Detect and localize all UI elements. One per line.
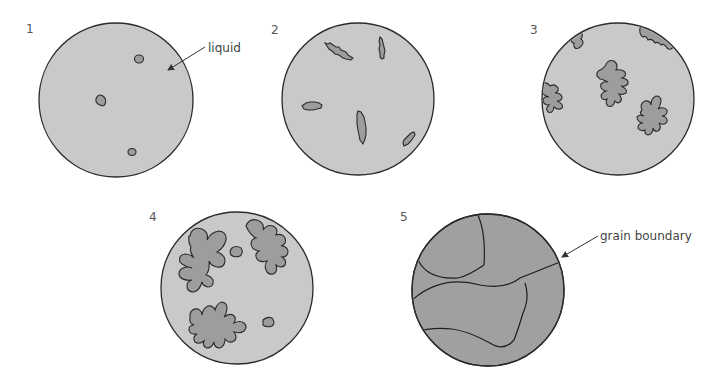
liquid-circle-4 xyxy=(161,212,313,364)
stage-5-number: 5 xyxy=(400,210,408,224)
stage-1-number: 1 xyxy=(26,22,34,36)
stage-5: 5 grain boundary xyxy=(400,210,692,366)
liquid-circle-2 xyxy=(282,23,434,175)
arrow-icon xyxy=(562,236,598,257)
stage-2-number: 2 xyxy=(271,23,279,37)
stage-4: 4 xyxy=(149,210,313,364)
stage-2: 2 xyxy=(271,23,434,175)
stage-1: 1 liquid xyxy=(26,22,241,177)
stage-3: 3 xyxy=(530,23,694,175)
nucleus xyxy=(135,55,144,63)
stage-4-number: 4 xyxy=(149,210,157,224)
label-grain-boundary: grain boundary xyxy=(600,229,692,243)
stage-3-number: 3 xyxy=(530,23,538,37)
liquid-circle-1 xyxy=(39,23,193,177)
nucleus xyxy=(128,149,136,156)
label-liquid: liquid xyxy=(208,41,241,55)
crystal xyxy=(302,102,322,110)
solid-circle-5 xyxy=(412,214,564,366)
